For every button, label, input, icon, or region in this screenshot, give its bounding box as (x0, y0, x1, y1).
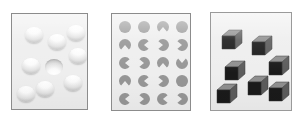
distractor-sphere (25, 27, 43, 43)
pacman-disc (157, 75, 169, 87)
distractor-sphere (22, 58, 40, 74)
distractor-sphere (64, 75, 82, 91)
cube-item (216, 83, 238, 105)
distractor-sphere (17, 86, 35, 102)
distractor-sphere (48, 34, 66, 50)
pacman-disc (157, 39, 169, 51)
cube-item (224, 60, 246, 82)
pacman-disc (157, 93, 169, 105)
cube-item (251, 35, 273, 57)
cube-item (268, 55, 290, 77)
cube-item (247, 75, 269, 97)
pacman-disc (119, 39, 131, 51)
full-disc (176, 75, 188, 87)
pacman-disc (119, 93, 131, 105)
distractor-sphere (67, 25, 85, 41)
pacman-disc (119, 75, 131, 87)
pacman-disc (119, 57, 131, 69)
pacman-disc (176, 93, 188, 105)
pacman-disc (176, 57, 188, 69)
visual-search-figure (0, 0, 301, 115)
distractor-sphere (69, 48, 87, 64)
target-sphere (45, 59, 63, 75)
pacman-discs-panel (111, 13, 191, 111)
shaded-spheres-panel (11, 13, 88, 110)
pacman-disc (138, 93, 150, 105)
pacman-disc (176, 39, 188, 51)
cubes-panel (210, 12, 292, 111)
pacman-disc (157, 57, 169, 69)
pacman-disc (157, 21, 169, 33)
full-disc (119, 21, 131, 33)
pacman-disc (138, 57, 150, 69)
distractor-sphere (36, 81, 54, 97)
pacman-disc (138, 75, 150, 87)
cube-item (268, 81, 290, 103)
cube-item (221, 29, 243, 51)
full-disc (176, 21, 188, 33)
pacman-disc (138, 39, 150, 51)
full-disc (138, 21, 150, 33)
